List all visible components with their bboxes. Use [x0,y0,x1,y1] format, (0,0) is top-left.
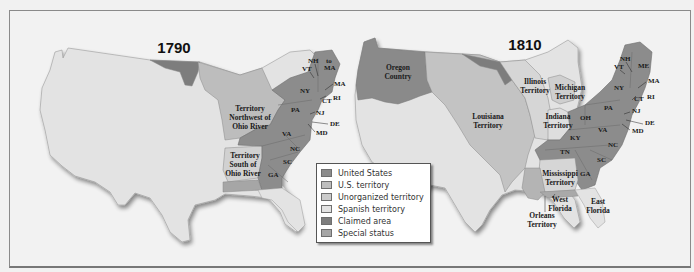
svg-text:TN: TN [560,148,570,156]
svg-text:Ohio River: Ohio River [232,122,268,131]
svg-text:VA: VA [282,130,291,138]
svg-text:East: East [591,197,606,206]
legend-item-claimed-area: Claimed area [321,215,426,227]
svg-text:VT: VT [614,63,624,71]
svg-text:VT: VT [302,65,312,73]
legend-item-us-territory: U.S. territory [321,179,426,191]
mississippi-territory-label: Mississippi Territory [542,169,577,187]
svg-text:Territory: Territory [543,121,573,130]
svg-text:Louisiana: Louisiana [472,112,504,121]
legend-label: Unorganized territory [338,193,424,202]
legend-item-unorganized-territory: Unorganized territory [321,191,426,203]
svg-text:Territory: Territory [230,151,260,160]
svg-text:Northwest of: Northwest of [229,113,271,122]
svg-text:Indiana: Indiana [545,112,570,121]
legend-swatch [321,205,332,213]
svg-text:NH: NH [308,57,319,65]
svg-text:West: West [552,195,568,204]
svg-text:NH: NH [620,55,631,63]
legend-item-special-status: Special status [321,227,426,239]
svg-text:CT: CT [322,97,332,105]
svg-text:Florida: Florida [586,206,610,215]
svg-text:Territory: Territory [527,220,557,229]
svg-text:Territory: Territory [473,121,503,130]
svg-text:Country: Country [384,72,411,81]
oregon-country-label: Oregon Country [384,63,411,81]
legend-swatch [321,169,332,177]
map-1790: 1790 Territory Northwest of Ohio River [40,39,346,242]
illinois-territory-label: Illinois Territory [520,77,550,95]
svg-text:KY: KY [570,134,581,142]
svg-text:MD: MD [316,129,328,137]
svg-text:Territory: Territory [520,86,550,95]
svg-text:MA: MA [334,80,346,88]
legend-swatch [321,229,332,237]
svg-text:Michigan: Michigan [555,83,586,92]
svg-text:Territory: Territory [235,104,265,113]
svg-text:VA: VA [598,126,607,134]
svg-text:NJ: NJ [316,109,325,117]
map-title-1810: 1810 [508,36,541,53]
legend-label: Claimed area [338,217,391,226]
svg-text:Oregon: Oregon [386,63,411,72]
svg-text:Orleans: Orleans [529,211,554,220]
svg-text:NJ: NJ [632,107,641,115]
svg-text:SC: SC [597,156,606,164]
legend-label: United States [338,169,392,178]
indiana-territory-label: Indiana Territory [543,112,573,130]
svg-text:DE: DE [330,120,340,128]
legend-item-united-states: United States [321,167,426,179]
svg-text:RI: RI [647,93,655,101]
svg-text:GA: GA [580,170,591,178]
svg-text:NY: NY [614,84,624,92]
svg-text:RI: RI [333,94,341,102]
legend-label: U.S. territory [338,181,389,190]
svg-text:PA: PA [291,106,300,114]
legend-label: Special status [338,229,394,238]
svg-text:GA: GA [268,171,279,179]
svg-text:NY: NY [300,87,310,95]
svg-text:DE: DE [645,119,655,127]
svg-text:PA: PA [604,104,613,112]
svg-text:ME: ME [638,62,650,70]
svg-text:Mississippi: Mississippi [542,169,577,178]
svg-text:MD: MD [632,127,644,135]
map-title-1790: 1790 [157,39,190,56]
map-legend: United States U.S. territory Unorganized… [316,163,431,243]
svg-text:MA: MA [648,77,660,85]
svg-text:OH: OH [580,114,591,122]
louisiana-territory-label: Louisiana Territory [472,112,504,130]
svg-text:Territory: Territory [545,178,575,187]
svg-text:SC: SC [283,158,292,166]
region-special-status-1790 [223,180,262,192]
svg-text:NC: NC [608,141,618,149]
legend-label: Spanish territory [338,205,405,214]
territory-south-label: Territory South of Ohio River [225,151,261,178]
svg-text:Illinois: Illinois [524,77,546,86]
legend-swatch [321,181,332,189]
svg-text:Territory: Territory [555,92,585,101]
legend-item-spanish-territory: Spanish territory [321,203,426,215]
legend-swatch [321,193,332,201]
svg-text:NC: NC [290,145,300,153]
michigan-territory-label: Michigan Territory [555,83,586,101]
svg-text:South of: South of [230,160,257,169]
svg-text:MA: MA [324,64,336,72]
legend-swatch [321,217,332,225]
svg-text:Ohio River: Ohio River [225,169,261,178]
orleans-territory-label: Orleans Territory [527,211,557,229]
